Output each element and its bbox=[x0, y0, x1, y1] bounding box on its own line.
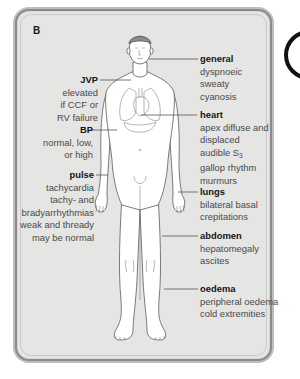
heart-s3-line: audible S3 bbox=[200, 147, 269, 163]
label-oedema: oedema peripheral oedema cold extremitie… bbox=[200, 283, 278, 321]
label-jvp: JVP elevated if CCF or RV failure bbox=[57, 74, 98, 124]
label-abdomen: abdomen hepatomegaly ascites bbox=[200, 230, 259, 268]
label-pulse: pulse tachycardia tachy- and bradyarrhyt… bbox=[20, 169, 94, 245]
label-bp: BP normal, low, or high bbox=[43, 124, 93, 162]
label-heart: heart apex diffuse and displaced audible… bbox=[200, 109, 269, 188]
label-general: general dyspnoeic sweaty cyanosis bbox=[200, 53, 242, 103]
label-lungs: lungs bilateral basal crepitations bbox=[200, 186, 258, 224]
